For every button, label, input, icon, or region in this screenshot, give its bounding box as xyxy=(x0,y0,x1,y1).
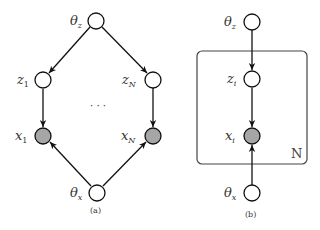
label-xi: xi xyxy=(225,128,235,145)
label-theta-z-b: θz xyxy=(224,14,237,31)
label-z1: z1 xyxy=(16,72,29,89)
node-zi xyxy=(244,71,260,87)
panel-a: θz z1 zN x1 xN θx · · · (a) xyxy=(15,13,161,215)
node-zN xyxy=(145,72,161,88)
panel-b: N θz zi xi θx (b) xyxy=(197,14,307,219)
node-theta-z-a xyxy=(88,13,104,29)
label-xN: xN xyxy=(121,128,136,145)
label-theta-x-b: θx xyxy=(224,185,237,202)
node-theta-x-a xyxy=(89,185,105,201)
node-xi xyxy=(244,128,260,144)
label-theta-x-a: θx xyxy=(70,185,83,202)
node-theta-z-b xyxy=(244,14,260,30)
edge-thetaz-zN xyxy=(102,27,147,73)
edge-thetax-x1 xyxy=(50,142,91,186)
node-x1 xyxy=(35,128,51,144)
plate-label: N xyxy=(291,146,302,161)
label-zi: zi xyxy=(226,71,237,88)
caption-a: (a) xyxy=(90,206,101,215)
graphical-model-figure: θz z1 zN x1 xN θx · · · (a) N θz zi xi θ… xyxy=(0,0,320,230)
ellipsis: · · · xyxy=(90,100,106,111)
node-theta-x-b xyxy=(244,185,260,201)
label-x1: x1 xyxy=(15,128,27,145)
edge-thetaz-z1 xyxy=(49,27,90,73)
edge-thetax-xN xyxy=(103,142,146,186)
node-z1 xyxy=(35,72,51,88)
node-xN xyxy=(145,128,161,144)
label-zN: zN xyxy=(121,72,137,89)
caption-b: (b) xyxy=(245,210,256,219)
label-theta-z-a: θz xyxy=(70,13,83,30)
